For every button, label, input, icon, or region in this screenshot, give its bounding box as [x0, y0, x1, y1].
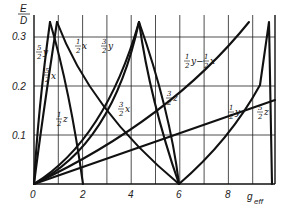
- svg-text:2: 2: [118, 110, 124, 118]
- svg-text:1: 1: [229, 104, 233, 112]
- curve-3-2-desc: [139, 22, 179, 184]
- svg-text:z: z: [172, 93, 178, 103]
- svg-text:y−: y−: [190, 56, 204, 66]
- label-1-2-x: 12x: [75, 38, 87, 55]
- svg-text:2: 2: [44, 76, 50, 84]
- svg-text:z: z: [62, 114, 68, 124]
- curve-3-2-z: [139, 22, 179, 184]
- label-1-2-z: 12z: [56, 111, 68, 128]
- x-tick-2: 2: [79, 189, 86, 200]
- svg-text:1: 1: [76, 38, 80, 46]
- svg-text:2: 2: [166, 99, 172, 107]
- svg-text:3: 3: [167, 90, 172, 98]
- svg-text:2: 2: [75, 47, 81, 55]
- label-3-2-x: 32x: [118, 101, 130, 118]
- svg-text:x: x: [51, 71, 56, 81]
- svg-text:3: 3: [119, 101, 124, 109]
- svg-text:2: 2: [184, 62, 190, 70]
- svg-text:1: 1: [204, 53, 208, 61]
- svg-text:x: x: [82, 41, 87, 51]
- x-axis-title: g: [247, 191, 253, 202]
- y-tick-0.3: 0.3: [12, 31, 26, 42]
- svg-text:x: x: [210, 56, 215, 66]
- x-tick-0: 0: [30, 189, 36, 200]
- curve-1-2-y: [179, 85, 260, 184]
- svg-text:z: z: [263, 107, 269, 117]
- svg-text:y: y: [107, 41, 114, 51]
- svg-text:y: y: [42, 47, 49, 57]
- svg-text:x: x: [125, 104, 130, 114]
- svg-text:5: 5: [45, 67, 50, 75]
- svg-text:2: 2: [101, 47, 107, 55]
- y-title-numerator: E: [20, 3, 27, 14]
- x-axis-title-subscript: eff: [254, 197, 264, 206]
- x-tick-6: 6: [176, 189, 182, 200]
- label-5-2-y: 52y: [36, 44, 49, 61]
- svg-text:3: 3: [102, 38, 107, 46]
- y-axis-title: E D: [18, 3, 30, 26]
- svg-text:y: y: [234, 107, 241, 117]
- svg-text:2: 2: [257, 113, 263, 121]
- y-tick-0.2: 0.2: [12, 81, 26, 92]
- svg-text:1: 1: [57, 111, 61, 119]
- svg-text:2: 2: [36, 53, 42, 61]
- chart: E D 0.3 0.2 0.1 0 2 4 6 8 g eff: [0, 0, 290, 212]
- svg-text:2: 2: [56, 120, 62, 128]
- svg-text:2: 2: [203, 62, 209, 70]
- svg-text:1: 1: [185, 53, 189, 61]
- label-5-2-z: 52z: [257, 104, 269, 121]
- curves: [34, 22, 275, 184]
- y-tick-0.1: 0.1: [12, 130, 26, 141]
- y-tick-labels: 0.3 0.2 0.1: [12, 31, 26, 141]
- label-3-2-y: 32y: [101, 38, 114, 55]
- x-tick-8: 8: [225, 189, 231, 200]
- svg-text:5: 5: [37, 44, 42, 52]
- y-title-denominator: D: [20, 15, 27, 26]
- x-tick-4: 4: [128, 189, 134, 200]
- svg-text:5: 5: [258, 104, 263, 112]
- label-1-2-y-minus-1-2-x: 12y− 12x: [184, 53, 215, 70]
- svg-text:2: 2: [228, 113, 234, 121]
- x-tick-labels: 0 2 4 6 8 g eff: [30, 189, 264, 206]
